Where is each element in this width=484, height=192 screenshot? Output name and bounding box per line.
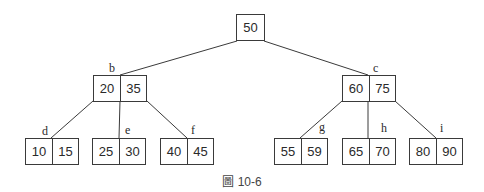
node-i: 80 90 xyxy=(409,138,463,165)
key-cell: 55 xyxy=(275,139,301,164)
key-cell: 80 xyxy=(410,139,436,164)
key-cell: 35 xyxy=(120,76,146,101)
node-label-g: g xyxy=(319,121,325,133)
key-cell: 20 xyxy=(94,76,120,101)
node-d: 10 15 xyxy=(25,138,79,165)
node-label-e: e xyxy=(125,124,130,136)
node-e: 25 30 xyxy=(92,138,146,165)
key-cell: 90 xyxy=(436,139,462,164)
figure-caption: 圖 10-6 xyxy=(0,172,484,189)
edge-root-b xyxy=(120,41,237,75)
key-cell: 65 xyxy=(343,139,369,164)
key-cell: 59 xyxy=(301,139,327,164)
node-g: 55 59 xyxy=(274,138,328,165)
key-cell: 15 xyxy=(52,139,78,164)
node-label-d: d xyxy=(42,125,48,137)
key-cell: 70 xyxy=(369,139,395,164)
key-cell: 75 xyxy=(369,76,395,101)
node-root: 50 xyxy=(236,14,265,41)
edge-b-e xyxy=(119,101,120,138)
node-f: 40 45 xyxy=(160,138,214,165)
figure-number: 10-6 xyxy=(238,175,262,189)
key-cell: 10 xyxy=(26,139,52,164)
node-label-h: h xyxy=(381,122,387,134)
key-cell: 45 xyxy=(187,139,213,164)
node-b: 20 35 xyxy=(93,75,147,102)
edge-b-d xyxy=(51,101,93,138)
figure-glyph: 圖 xyxy=(222,175,234,189)
node-label-i: i xyxy=(440,122,443,134)
edge-c-i xyxy=(395,101,436,138)
node-h: 65 70 xyxy=(342,138,396,165)
edge-root-c xyxy=(264,41,368,75)
edge-b-f xyxy=(147,101,187,138)
key-cell: 50 xyxy=(237,15,264,40)
key-cell: 60 xyxy=(343,76,369,101)
node-c: 60 75 xyxy=(342,75,396,102)
key-cell: 40 xyxy=(161,139,187,164)
node-label-c: c xyxy=(373,62,378,74)
key-cell: 25 xyxy=(93,139,119,164)
node-label-f: f xyxy=(191,124,195,136)
node-label-b: b xyxy=(109,62,115,74)
key-cell: 30 xyxy=(119,139,145,164)
